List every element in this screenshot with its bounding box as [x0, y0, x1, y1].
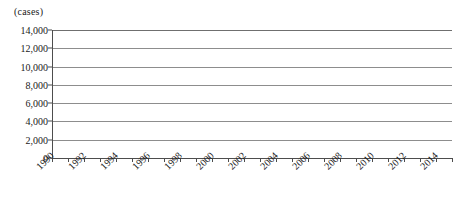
y-tick-mark: [48, 84, 52, 85]
y-tick-label: 2,000: [26, 134, 49, 145]
y-tick-label: 10,000: [21, 61, 49, 72]
y-tick-mark: [48, 66, 52, 67]
gridline: [52, 85, 452, 86]
x-tick-mark: [452, 158, 453, 162]
y-tick-mark: [48, 48, 52, 49]
plot-area: [52, 30, 452, 158]
y-tick-mark: [48, 103, 52, 104]
gridline: [52, 30, 452, 31]
y-tick-label: 6,000: [26, 98, 49, 109]
gridline: [52, 140, 452, 141]
y-axis-unit-label: (cases): [14, 6, 43, 17]
gridline: [52, 67, 452, 68]
y-tick-label: 12,000: [21, 43, 49, 54]
y-tick-label: 14,000: [21, 25, 49, 36]
gridline: [52, 121, 452, 122]
y-tick-mark: [48, 30, 52, 31]
y-tick-mark: [48, 139, 52, 140]
y-axis-line: [52, 30, 53, 158]
chart-container: (cases) 14,00012,00010,0008,0006,0004,00…: [0, 0, 463, 197]
y-axis-tick-labels: 14,00012,00010,0008,0006,0004,0002,0000: [0, 30, 48, 158]
gridline: [52, 48, 452, 49]
gridline: [52, 103, 452, 104]
y-tick-label: 8,000: [26, 79, 49, 90]
y-tick-label: 4,000: [26, 116, 49, 127]
y-tick-mark: [48, 121, 52, 122]
